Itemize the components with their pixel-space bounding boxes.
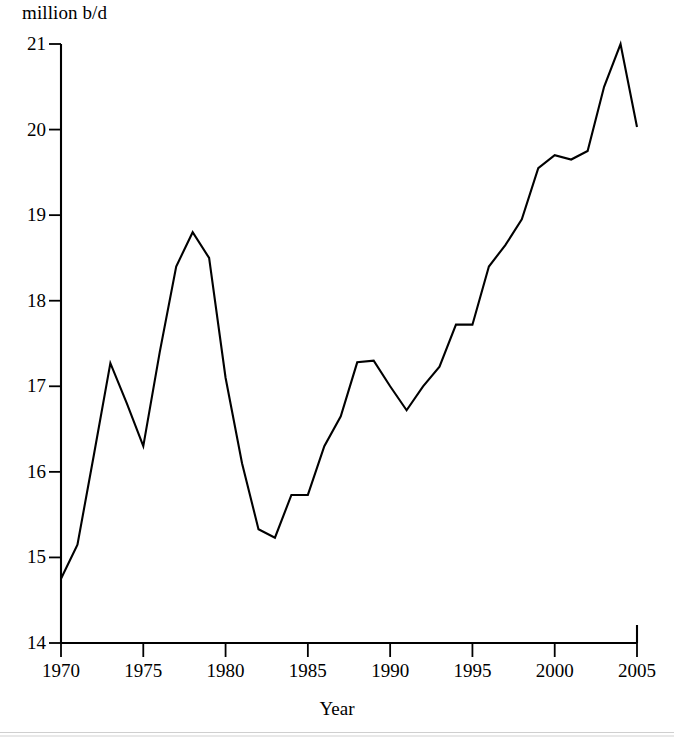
y-tick-label-21: 21 (2, 34, 46, 54)
x-tick-label-1980: 1980 (186, 661, 266, 681)
x-tick-label-1975: 1975 (103, 661, 183, 681)
x-tick-label-1985: 1985 (268, 661, 348, 681)
y-tick-label-19: 19 (2, 205, 46, 225)
x-tick-label-2005: 2005 (597, 661, 674, 681)
x-tick-label-1990: 1990 (350, 661, 430, 681)
y-tick-label-18: 18 (2, 291, 46, 311)
data-series-line (61, 44, 637, 579)
axis-ticks (49, 44, 637, 657)
y-tick-label-20: 20 (2, 120, 46, 140)
y-tick-label-14: 14 (2, 633, 46, 653)
scan-artifact-line (0, 732, 674, 733)
axes (61, 44, 637, 643)
x-axis-title: Year (0, 698, 674, 720)
line-chart: million b/d 1415161718192021 19701975198… (0, 0, 674, 737)
plot-area (0, 0, 674, 737)
x-tick-label-2000: 2000 (515, 661, 595, 681)
y-tick-label-15: 15 (2, 547, 46, 567)
y-tick-label-17: 17 (2, 376, 46, 396)
x-tick-label-1970: 1970 (21, 661, 101, 681)
y-tick-label-16: 16 (2, 462, 46, 482)
x-tick-label-1995: 1995 (432, 661, 512, 681)
